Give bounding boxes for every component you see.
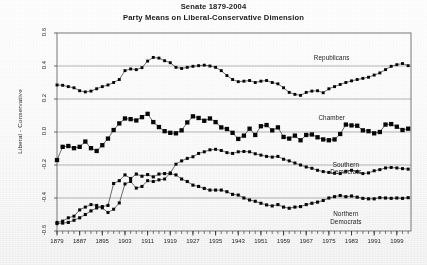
y-tick-label: 0.0 xyxy=(41,121,47,141)
series-label-republicans-text: Republicans xyxy=(314,54,350,61)
series-label-southern-democrats-line2: Democrats xyxy=(330,168,361,175)
y-tick-label: 0.6 xyxy=(41,22,47,42)
series-label-chamber-text: Chamber xyxy=(318,114,345,121)
y-tick-label: -0.6 xyxy=(41,220,47,240)
y-tick-label: -0.4 xyxy=(41,187,47,207)
series-label-republicans: Republicans xyxy=(305,54,359,62)
series-label-southern-democrats-line1: Southern xyxy=(333,161,359,168)
series-label-northern-democrats: Northern Democrats xyxy=(319,210,373,225)
series-label-southern-democrats: Southern Democrats xyxy=(319,161,373,176)
series-label-northern-democrats-line2: Democrats xyxy=(330,218,361,225)
y-tick-label: 0.4 xyxy=(41,55,47,75)
y-tick-label: -0.2 xyxy=(41,154,47,174)
y-tick-label: 0.2 xyxy=(41,88,47,108)
x-tick-label: 1999 xyxy=(384,238,410,244)
series-label-northern-democrats-line1: Northern xyxy=(333,210,358,217)
series-label-chamber: Chamber xyxy=(309,114,355,122)
